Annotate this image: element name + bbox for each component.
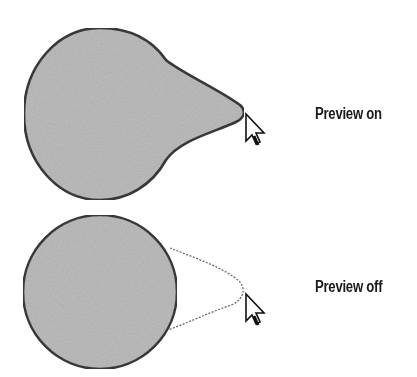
preview-off-shape [23,215,243,369]
arrow-cursor-icon [246,294,264,325]
preview-on-label: Preview on [315,105,382,123]
preview-off-label: Preview off [315,278,382,296]
preview-comparison-figure [0,0,417,377]
arrow-cursor-icon [246,114,264,145]
preview-on-shape [24,28,244,200]
preview-outline [168,248,243,330]
